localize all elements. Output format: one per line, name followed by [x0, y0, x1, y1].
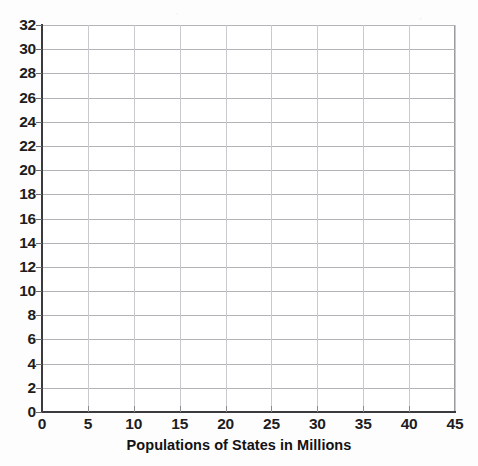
x-axis-tick-label: 10	[114, 416, 154, 432]
gridline-horizontal	[42, 267, 455, 268]
x-axis-tick-label: 5	[68, 416, 108, 432]
x-axis-tick-label: 30	[297, 416, 337, 432]
x-axis-tick	[409, 406, 410, 412]
chart-figure: 32302826242220181614121086420 0510152025…	[0, 0, 478, 466]
y-axis-tick-label: 18	[2, 186, 36, 202]
x-axis-tick-label: 40	[389, 416, 429, 432]
y-axis-tick	[36, 146, 42, 147]
gridline-vertical	[363, 25, 364, 412]
gridline-horizontal	[42, 146, 455, 147]
gridline-horizontal	[42, 388, 455, 389]
y-axis-tick	[36, 170, 42, 171]
gridline-vertical	[134, 25, 135, 412]
gridline-vertical	[88, 25, 89, 412]
x-axis-title: Populations of States in Millions	[0, 437, 478, 453]
x-axis-tick	[88, 406, 89, 412]
gridline-vertical	[271, 25, 272, 412]
y-axis-tick	[36, 243, 42, 244]
gridline-horizontal	[42, 49, 455, 50]
y-axis-tick	[36, 412, 42, 413]
gridline-horizontal	[42, 339, 455, 340]
y-axis-tick-label: 26	[2, 90, 36, 106]
y-axis-tick	[36, 267, 42, 268]
gridline-vertical	[180, 25, 181, 412]
gridline-horizontal	[42, 219, 455, 220]
plot-area	[42, 25, 455, 412]
x-axis-line	[41, 411, 456, 413]
gridline-vertical	[226, 25, 227, 412]
x-axis-tick	[363, 406, 364, 412]
y-axis-tick	[36, 315, 42, 316]
y-axis-tick-label: 10	[2, 283, 36, 299]
gridline-horizontal	[42, 315, 455, 316]
x-axis-tick-label: 45	[435, 416, 475, 432]
y-axis-tick-label: 4	[2, 356, 36, 372]
x-axis-tick-label: 35	[343, 416, 383, 432]
y-axis-tick-label: 14	[2, 235, 36, 251]
gridline-horizontal	[42, 364, 455, 365]
y-axis-tick	[36, 73, 42, 74]
y-axis-tick	[36, 98, 42, 99]
gridline-horizontal	[42, 73, 455, 74]
gridline-horizontal	[42, 243, 455, 244]
x-axis-tick-label: 25	[251, 416, 291, 432]
x-axis-tick-label: 15	[160, 416, 200, 432]
y-axis-tick	[36, 194, 42, 195]
y-axis-tick-label: 12	[2, 259, 36, 275]
y-axis-tick-label: 16	[2, 211, 36, 227]
y-axis-tick	[36, 122, 42, 123]
x-axis-tick	[226, 406, 227, 412]
y-axis-tick-label: 22	[2, 138, 36, 154]
y-axis-tick	[36, 339, 42, 340]
y-axis-tick-labels: 32302826242220181614121086420	[0, 0, 36, 466]
y-axis-tick	[36, 388, 42, 389]
y-axis-tick	[36, 291, 42, 292]
x-axis-tick-label: 0	[22, 416, 62, 432]
gridline-horizontal	[42, 170, 455, 171]
gridline-horizontal	[42, 291, 455, 292]
gridline-horizontal	[42, 25, 455, 26]
x-axis-tick	[134, 406, 135, 412]
x-axis-tick	[317, 406, 318, 412]
gridline-horizontal	[42, 98, 455, 99]
gridline-vertical	[317, 25, 318, 412]
y-axis-tick-label: 20	[2, 162, 36, 178]
y-axis-tick	[36, 364, 42, 365]
gridline-horizontal	[42, 194, 455, 195]
gridline-vertical	[409, 25, 410, 412]
x-axis-tick	[271, 406, 272, 412]
x-axis-tick	[180, 406, 181, 412]
y-axis-tick	[36, 219, 42, 220]
gridline-vertical	[455, 25, 456, 412]
y-axis-tick-label: 28	[2, 65, 36, 81]
y-axis-tick	[36, 49, 42, 50]
y-axis-tick	[36, 25, 42, 26]
y-axis-tick-label: 30	[2, 41, 36, 57]
y-axis-tick-label: 2	[2, 380, 36, 396]
y-axis-tick-label: 8	[2, 307, 36, 323]
y-axis-tick-label: 6	[2, 331, 36, 347]
gridline-horizontal	[42, 122, 455, 123]
y-axis-tick-label: 24	[2, 114, 36, 130]
x-axis-tick-label: 20	[206, 416, 246, 432]
y-axis-tick-label: 32	[2, 17, 36, 33]
